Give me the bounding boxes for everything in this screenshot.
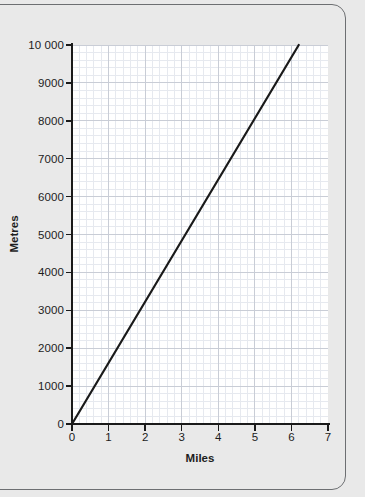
- x-tick-label: 0: [69, 431, 75, 443]
- x-tick-label: 1: [105, 431, 111, 443]
- y-tick-mark: [66, 385, 72, 387]
- y-tick-label: 6000: [38, 191, 64, 203]
- x-tick-label: 5: [252, 431, 258, 443]
- y-tick-label: 2000: [38, 342, 64, 354]
- x-tick-label: 2: [142, 431, 148, 443]
- y-tick-mark: [66, 120, 72, 122]
- y-tick-mark: [66, 234, 72, 236]
- y-tick-mark: [66, 82, 72, 84]
- y-tick-mark: [66, 272, 72, 274]
- y-tick-mark: [66, 44, 72, 46]
- y-tick-label: 9000: [38, 77, 64, 89]
- y-tick-label: 10 000: [28, 39, 64, 51]
- x-tick-label: 3: [179, 431, 185, 443]
- y-tick-label: 3000: [38, 304, 64, 316]
- x-tick-label: 6: [288, 431, 294, 443]
- x-tick-label: 7: [325, 431, 331, 443]
- y-tick-mark: [66, 347, 72, 349]
- data-series-line: [72, 45, 328, 424]
- y-tick-label: 4000: [38, 266, 64, 278]
- y-tick-label: 5000: [38, 229, 64, 241]
- y-axis-title: Metres: [8, 215, 20, 252]
- y-tick-mark: [66, 196, 72, 198]
- x-tick-label: 4: [215, 431, 221, 443]
- y-tick-mark: [66, 158, 72, 160]
- x-axis-title: Miles: [186, 452, 215, 464]
- y-tick-label: 1000: [38, 380, 64, 392]
- y-tick-label: 8000: [38, 115, 64, 127]
- y-tick-mark: [66, 310, 72, 312]
- y-tick-label: 0: [58, 418, 65, 430]
- plot-area: [72, 45, 328, 424]
- y-tick-label: 7000: [38, 153, 64, 165]
